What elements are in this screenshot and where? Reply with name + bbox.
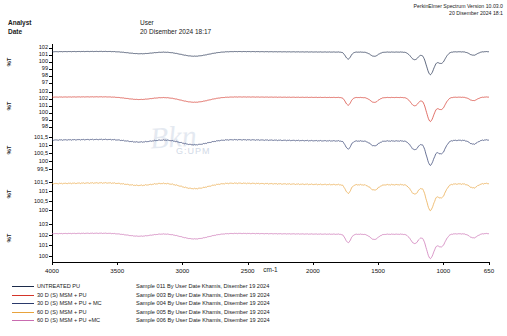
y-axis-title-text: %T: [6, 187, 12, 201]
y-tick-label: 99,5: [18, 166, 48, 172]
legend-series-name: UNTREATED PU: [37, 282, 136, 291]
y-tick-label: 101: [18, 51, 48, 57]
legend-row: 30 D (S) MSM + PU + MCSample 004 By User…: [12, 299, 273, 308]
analyst-label: Analyst: [8, 18, 31, 27]
y-axis-title: %T: [2, 103, 16, 109]
legend-sample-description: Sample 006 By User Date Khamis, Disember…: [136, 316, 273, 325]
y-axis-title-text: %T: [6, 99, 12, 113]
y-tick-label: 100: [18, 253, 48, 259]
software-info: PerkinElmer Spectrum Version 10.03.0 20 …: [414, 3, 503, 17]
header-values-block: User 20 Disember 2024 18:17: [140, 18, 211, 36]
legend-color-swatch: [12, 312, 34, 313]
x-tick-label: 3000: [168, 267, 196, 274]
legend-row: 30 D (S) MSM + PUSample 003 By User Date…: [12, 291, 273, 300]
y-tick-label: 99: [18, 116, 48, 122]
y-tick-mark: [49, 201, 52, 202]
y-tick-mark: [49, 69, 52, 70]
x-tick-label: 4000: [38, 267, 66, 274]
y-tick-mark: [49, 191, 52, 192]
legend-swatch-cell: [12, 282, 37, 291]
y-axis-title: %T: [2, 191, 16, 197]
spectrum-curve: [52, 97, 489, 122]
y-tick-mark: [49, 137, 52, 138]
y-tick-mark: [49, 161, 52, 162]
software-timestamp: 20 Disember 2024 18:1: [414, 10, 503, 17]
y-tick-label: 103: [18, 88, 48, 94]
y-tick-label: 100: [18, 58, 48, 64]
x-tick-mark: [489, 262, 490, 265]
software-version: PerkinElmer Spectrum Version 10.03.0: [414, 3, 503, 10]
date-label: Date: [8, 27, 31, 36]
y-tick-label: 100: [18, 158, 48, 164]
y-tick-label: 98: [18, 123, 48, 129]
legend-series-name: 30 D (S) MSM + PU: [37, 291, 136, 300]
y-tick-label: 101: [18, 142, 48, 148]
x-tick-label: 1500: [364, 267, 392, 274]
x-tick-mark: [117, 262, 118, 265]
y-tick-mark: [49, 145, 52, 146]
y-tick-label: 100,5: [18, 198, 48, 204]
legend-swatch-cell: [12, 291, 37, 300]
legend-row: 60 D (S) MSM + PU +MCSample 006 By User …: [12, 316, 273, 325]
y-tick-mark: [49, 245, 52, 246]
x-tick-label: 1000: [429, 267, 457, 274]
y-tick-label: 101,5: [18, 134, 48, 140]
y-tick-label: 101: [18, 188, 48, 194]
y-tick-label: 101,5: [18, 179, 48, 185]
y-tick-mark: [49, 99, 52, 100]
y-tick-mark: [49, 224, 52, 225]
y-tick-mark: [49, 48, 52, 49]
y-tick-label: 98: [18, 72, 48, 78]
spectra-plot-area: 4000350030002500200015001000650cm-110210…: [52, 44, 489, 262]
y-tick-label: 101: [18, 242, 48, 248]
legend-sample-description: Sample 011 By User Date Khamis, Disember…: [136, 282, 273, 291]
x-tick-mark: [313, 262, 314, 265]
legend-series-name: 60 D (S) MSM + PU: [37, 308, 136, 317]
x-axis-title: cm-1: [241, 266, 301, 273]
legend: UNTREATED PUSample 011 By User Date Kham…: [12, 282, 273, 325]
x-tick-label: 650: [475, 267, 503, 274]
y-tick-mark: [49, 169, 52, 170]
legend-color-swatch: [12, 286, 34, 287]
legend-sample-description: Sample 004 By User Date Khamis, Disember…: [136, 299, 273, 308]
y-axis-title: %T: [2, 59, 16, 65]
y-tick-mark: [49, 113, 52, 114]
y-tick-label: 99: [18, 65, 48, 71]
x-tick-mark: [378, 262, 379, 265]
y-tick-mark: [49, 62, 52, 63]
y-tick-mark: [49, 127, 52, 128]
spectrum-curve: [52, 233, 489, 259]
header-analyst-block: Analyst Date: [8, 18, 31, 36]
y-tick-mark: [49, 256, 52, 257]
y-tick-mark: [49, 76, 52, 77]
y-tick-label: 103: [18, 221, 48, 227]
y-tick-label: 102: [18, 44, 48, 50]
y-tick-label: 100: [18, 207, 48, 213]
spectrum-report: Analyst Date User 20 Disember 2024 18:17…: [0, 0, 507, 336]
y-tick-label: 101: [18, 102, 48, 108]
y-tick-mark: [49, 106, 52, 107]
x-tick-label: 2000: [299, 267, 327, 274]
x-tick-mark: [182, 262, 183, 265]
legend-sample-description: Sample 005 By User Date Khamis, Disember…: [136, 308, 273, 317]
y-tick-label: 97: [18, 79, 48, 85]
x-tick-mark: [52, 262, 53, 265]
legend-series-name: 60 D (S) MSM + PU +MC: [37, 316, 136, 325]
y-tick-mark: [49, 83, 52, 84]
y-axis-title-text: %T: [6, 231, 12, 245]
legend-row: 60 D (S) MSM + PUSample 005 By User Date…: [12, 308, 273, 317]
spectrum-curve: [52, 51, 489, 74]
y-tick-mark: [49, 182, 52, 183]
legend-series-name: 30 D (S) MSM + PU + MC: [37, 299, 136, 308]
y-tick-mark: [49, 55, 52, 56]
spectrum-curve: [52, 139, 489, 165]
analyst-value: User: [140, 18, 211, 27]
y-tick-label: 100,5: [18, 150, 48, 156]
x-tick-mark: [443, 262, 444, 265]
y-tick-label: 100: [18, 109, 48, 115]
y-tick-label: 102: [18, 95, 48, 101]
y-axis-title: %T: [2, 235, 16, 241]
legend-table: UNTREATED PUSample 011 By User Date Kham…: [12, 282, 273, 325]
y-axis-title-text: %T: [6, 143, 12, 157]
legend-color-swatch: [12, 303, 34, 304]
